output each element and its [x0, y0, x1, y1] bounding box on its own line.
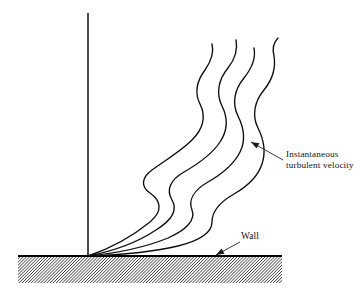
hatch-stroke — [301, 256, 328, 283]
figure-canvas: Instantaneous turbulent velocity Wall — [0, 0, 362, 295]
hatch-stroke — [304, 256, 331, 283]
hatch-stroke — [313, 256, 340, 283]
wall-label-leader — [216, 242, 240, 255]
instantaneous-velocity-label-line1: Instantaneous — [286, 149, 339, 159]
hatch-stroke — [320, 256, 347, 283]
hatch-stroke — [0, 256, 21, 283]
hatch-stroke — [326, 256, 353, 283]
wall-label: Wall — [241, 231, 259, 241]
hatch-stroke — [323, 256, 350, 283]
hatch-stroke — [310, 256, 337, 283]
hatch-stroke — [286, 256, 313, 283]
hatch-stroke — [332, 256, 359, 283]
velocity-profile-curve — [88, 44, 213, 256]
wall-hatch-pattern — [0, 256, 362, 283]
hatch-stroke — [282, 256, 309, 283]
hatch-stroke — [292, 256, 319, 283]
hatch-stroke — [298, 256, 325, 283]
velocity-profile-curve — [88, 40, 237, 256]
hatch-stroke — [0, 256, 18, 283]
velocity-arrow-icon — [251, 142, 259, 149]
velocity-profile-curves — [88, 38, 278, 256]
velocity-label-leader — [251, 142, 283, 160]
velocity-profile-curve — [88, 48, 255, 256]
turbulent-boundary-layer-figure: Instantaneous turbulent velocity Wall — [0, 0, 362, 295]
hatch-stroke — [335, 256, 362, 283]
hatch-stroke — [329, 256, 356, 283]
instantaneous-velocity-label-line2: turbulent velocity — [286, 160, 354, 170]
hatch-stroke — [295, 256, 322, 283]
hatch-stroke — [317, 256, 344, 283]
wall-arrow-icon — [216, 249, 224, 255]
hatch-stroke — [307, 256, 334, 283]
hatch-stroke — [279, 256, 306, 283]
hatch-stroke — [289, 256, 316, 283]
